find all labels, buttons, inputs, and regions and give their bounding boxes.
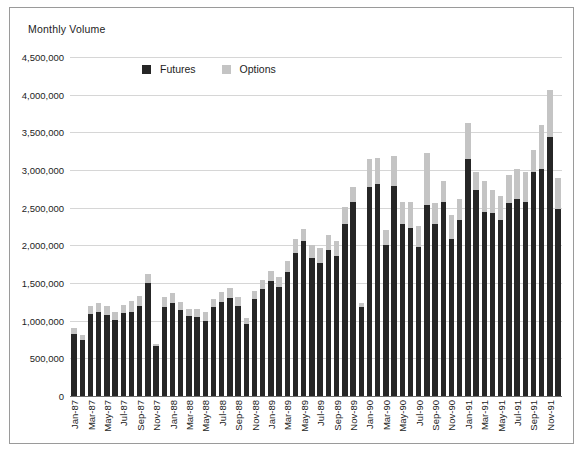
bar-column[interactable] <box>382 57 390 396</box>
x-tick-cell: Jul-88 <box>218 398 226 448</box>
bar-column[interactable] <box>431 57 439 396</box>
bar-column[interactable] <box>333 57 341 396</box>
bar-column[interactable] <box>513 57 521 396</box>
bar-column[interactable] <box>275 57 283 396</box>
bar-column[interactable] <box>308 57 316 396</box>
bar-column[interactable] <box>70 57 78 396</box>
bar-column[interactable] <box>357 57 365 396</box>
bar-segment-options <box>326 235 331 250</box>
x-tick-cell: Nov-88 <box>250 398 258 448</box>
bar-column[interactable] <box>160 57 168 396</box>
bar-column[interactable] <box>546 57 554 396</box>
bar-column[interactable] <box>234 57 242 396</box>
bar-segment-futures <box>71 334 76 396</box>
bar-column[interactable] <box>136 57 144 396</box>
bar-segment-options <box>227 288 232 299</box>
x-tick-cell: Nov-90 <box>447 398 455 448</box>
bar-segment-options <box>186 309 191 316</box>
bar-segment-options <box>88 306 93 314</box>
bar-stack <box>219 292 224 396</box>
bar-segment-futures <box>514 199 519 396</box>
bar-segment-futures <box>506 203 511 396</box>
bar-stack <box>88 306 93 396</box>
bar-column[interactable] <box>86 57 94 396</box>
bar-segment-options <box>490 190 495 213</box>
bar-column[interactable] <box>242 57 250 396</box>
bar-segment-futures <box>391 186 396 396</box>
bar-segment-futures <box>400 224 405 396</box>
bar-segment-futures <box>416 247 421 396</box>
bar-column[interactable] <box>398 57 406 396</box>
bar-column[interactable] <box>103 57 111 396</box>
bar-column[interactable] <box>365 57 373 396</box>
bar-column[interactable] <box>521 57 529 396</box>
bar-column[interactable] <box>300 57 308 396</box>
bar-column[interactable] <box>78 57 86 396</box>
bar-column[interactable] <box>127 57 135 396</box>
bar-stack <box>490 190 495 396</box>
bar-column[interactable] <box>505 57 513 396</box>
bar-column[interactable] <box>341 57 349 396</box>
bar-column[interactable] <box>111 57 119 396</box>
bar-column[interactable] <box>201 57 209 396</box>
bar-segment-futures <box>153 346 158 396</box>
bar-column[interactable] <box>390 57 398 396</box>
bar-segment-options <box>457 199 462 220</box>
bar-column[interactable] <box>218 57 226 396</box>
x-tick-cell: Jan-90 <box>365 398 373 448</box>
bar-stack <box>178 302 183 396</box>
bar-stack <box>498 196 503 396</box>
bar-column[interactable] <box>423 57 431 396</box>
bar-stack <box>326 235 331 396</box>
bar-segment-options <box>424 153 429 206</box>
bar-column[interactable] <box>267 57 275 396</box>
bar-stack <box>285 261 290 396</box>
bar-column[interactable] <box>554 57 562 396</box>
bar-column[interactable] <box>447 57 455 396</box>
bar-column[interactable] <box>349 57 357 396</box>
bar-column[interactable] <box>415 57 423 396</box>
bar-column[interactable] <box>119 57 127 396</box>
bar-column[interactable] <box>291 57 299 396</box>
bar-column[interactable] <box>464 57 472 396</box>
bar-column[interactable] <box>439 57 447 396</box>
bar-column[interactable] <box>209 57 217 396</box>
bar-stack <box>375 158 380 396</box>
bar-column[interactable] <box>529 57 537 396</box>
bar-column[interactable] <box>488 57 496 396</box>
bar-column[interactable] <box>193 57 201 396</box>
bar-column[interactable] <box>177 57 185 396</box>
bar-column[interactable] <box>185 57 193 396</box>
bar-column[interactable] <box>374 57 382 396</box>
bar-column[interactable] <box>456 57 464 396</box>
bar-stack <box>449 215 454 396</box>
bar-segment-options <box>112 312 117 320</box>
x-tick-cell: May-90 <box>398 398 406 448</box>
bar-segment-futures <box>359 307 364 396</box>
bar-column[interactable] <box>316 57 324 396</box>
bar-stack <box>539 125 544 396</box>
bar-column[interactable] <box>259 57 267 396</box>
bar-column[interactable] <box>144 57 152 396</box>
bar-stack <box>170 293 175 396</box>
bar-segment-futures <box>194 317 199 396</box>
bar-column[interactable] <box>406 57 414 396</box>
bar-column[interactable] <box>480 57 488 396</box>
y-tick-label: 3,500,000 <box>0 127 64 138</box>
bar-column[interactable] <box>497 57 505 396</box>
x-tick-cell: Nov-89 <box>349 398 357 448</box>
bar-segment-futures <box>531 172 536 396</box>
bar-column[interactable] <box>152 57 160 396</box>
bar-column[interactable] <box>538 57 546 396</box>
bar-segment-futures <box>334 256 339 396</box>
bar-column[interactable] <box>168 57 176 396</box>
bar-stack <box>268 271 273 396</box>
bar-column[interactable] <box>472 57 480 396</box>
bar-column[interactable] <box>324 57 332 396</box>
x-tick-cell: Jan-91 <box>464 398 472 448</box>
x-tick-cell: Sep-87 <box>136 398 144 448</box>
bar-column[interactable] <box>226 57 234 396</box>
bar-column[interactable] <box>95 57 103 396</box>
bar-column[interactable] <box>250 57 258 396</box>
bar-column[interactable] <box>283 57 291 396</box>
